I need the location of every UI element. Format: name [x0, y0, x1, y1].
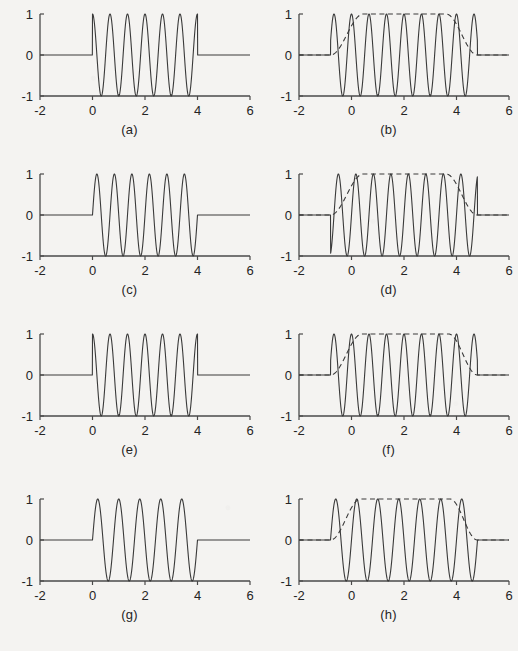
x-tick-label: 0 — [348, 423, 355, 438]
plot-area-g: -20246-101 — [0, 485, 259, 651]
x-tick-label: 0 — [348, 103, 355, 118]
subplot-d: -20246-101 (d) — [259, 160, 518, 320]
x-tick-label: 6 — [505, 588, 512, 603]
x-tick-label: 4 — [194, 423, 201, 438]
x-tick-label: 2 — [141, 103, 148, 118]
x-tick-label: 6 — [505, 423, 512, 438]
x-tick-label: 0 — [89, 263, 96, 278]
y-tick-label: 0 — [285, 533, 292, 548]
subplot-f: -20246-101 (f) — [259, 320, 518, 485]
x-tick-label: 2 — [141, 588, 148, 603]
subplot-c: -20246-101 (c) — [0, 160, 259, 320]
x-tick-label: 4 — [453, 588, 460, 603]
y-tick-label: -1 — [280, 249, 292, 264]
y-tick-label: -1 — [21, 409, 33, 424]
y-tick-label: 0 — [26, 368, 33, 383]
x-tick-label: 6 — [505, 263, 512, 278]
y-tick-label: 1 — [26, 492, 33, 507]
x-tick-label: -2 — [34, 263, 46, 278]
x-tick-label: 2 — [141, 423, 148, 438]
y-tick-label: 0 — [26, 208, 33, 223]
plot-area-h: -20246-101 — [259, 485, 518, 651]
x-tick-label: 4 — [453, 263, 460, 278]
x-tick-label: 2 — [400, 588, 407, 603]
x-tick-label: 0 — [89, 423, 96, 438]
y-tick-label: 1 — [285, 492, 292, 507]
signal-curve — [40, 14, 250, 96]
x-tick-label: 6 — [246, 423, 253, 438]
y-tick-label: 0 — [26, 533, 33, 548]
y-tick-label: 0 — [285, 48, 292, 63]
subplot-b: -20246-101 (b) — [259, 0, 518, 160]
subplot-label-a: (a) — [0, 122, 259, 137]
y-tick-label: -1 — [280, 409, 292, 424]
subplot-a: -20246-101 (a) — [0, 0, 259, 160]
x-tick-label: 2 — [141, 263, 148, 278]
figure-panel-grid: -20246-101 (a) -20246-101 (b) -20246-101… — [0, 0, 518, 651]
y-tick-label: 1 — [285, 327, 292, 342]
x-tick-label: 4 — [453, 103, 460, 118]
y-tick-label: 1 — [26, 7, 33, 22]
subplot-label-g: (g) — [0, 607, 259, 622]
y-tick-label: 1 — [26, 327, 33, 342]
x-tick-label: 0 — [348, 263, 355, 278]
signal-curve — [40, 499, 250, 581]
x-tick-label: 0 — [89, 588, 96, 603]
chart-svg: -20246-101 — [0, 485, 259, 651]
x-tick-label: 4 — [194, 588, 201, 603]
y-tick-label: -1 — [21, 574, 33, 589]
x-tick-label: 6 — [246, 263, 253, 278]
x-tick-label: -2 — [293, 588, 305, 603]
x-tick-label: -2 — [293, 103, 305, 118]
x-tick-label: 0 — [348, 588, 355, 603]
x-tick-label: -2 — [293, 423, 305, 438]
x-tick-label: 6 — [246, 588, 253, 603]
chart-svg: -20246-101 — [0, 320, 259, 485]
y-tick-label: 0 — [26, 48, 33, 63]
plot-area-e: -20246-101 — [0, 320, 259, 485]
y-tick-label: 1 — [285, 167, 292, 182]
chart-svg: -20246-101 — [259, 320, 518, 485]
y-tick-label: -1 — [280, 574, 292, 589]
subplot-label-h: (h) — [259, 607, 518, 622]
subplot-label-e: (e) — [0, 442, 259, 457]
subplot-g: -20246-101 (g) — [0, 485, 259, 651]
chart-svg: -20246-101 — [259, 485, 518, 651]
x-tick-label: 6 — [505, 103, 512, 118]
x-tick-label: 2 — [400, 423, 407, 438]
x-tick-label: 0 — [89, 103, 96, 118]
x-tick-label: 6 — [246, 103, 253, 118]
subplot-label-d: (d) — [259, 282, 518, 297]
subplot-h: -20246-101 (h) — [259, 485, 518, 651]
x-tick-label: 4 — [194, 103, 201, 118]
x-tick-label: -2 — [34, 588, 46, 603]
y-tick-label: 1 — [285, 7, 292, 22]
y-tick-label: 0 — [285, 368, 292, 383]
subplot-e: -20246-101 (e) — [0, 320, 259, 485]
y-tick-label: -1 — [280, 89, 292, 104]
plot-area-f: -20246-101 — [259, 320, 518, 485]
y-tick-label: -1 — [21, 249, 33, 264]
x-tick-label: 4 — [453, 423, 460, 438]
subplot-label-c: (c) — [0, 282, 259, 297]
x-tick-label: -2 — [293, 263, 305, 278]
x-tick-label: 2 — [400, 103, 407, 118]
x-tick-label: -2 — [34, 423, 46, 438]
signal-curve — [40, 334, 250, 416]
y-tick-label: 1 — [26, 167, 33, 182]
y-tick-label: 0 — [285, 208, 292, 223]
x-tick-label: 4 — [194, 263, 201, 278]
x-tick-label: 2 — [400, 263, 407, 278]
subplot-label-f: (f) — [259, 442, 518, 457]
x-tick-label: -2 — [34, 103, 46, 118]
subplot-label-b: (b) — [259, 122, 518, 137]
signal-curve — [40, 174, 250, 256]
y-tick-label: -1 — [21, 89, 33, 104]
